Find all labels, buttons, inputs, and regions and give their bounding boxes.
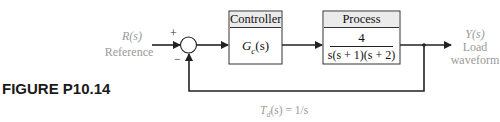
plus-sign: +	[170, 26, 177, 41]
controller-title-text: Controller	[230, 12, 281, 26]
disturbance-rest: (s) = 1/s	[270, 104, 308, 116]
disturbance-label: Td(s) = 1/s	[260, 104, 308, 119]
process-title: Process	[324, 12, 399, 28]
summing-junction	[181, 37, 197, 53]
minus-sign: −	[174, 52, 181, 67]
output-name-line2: waveform	[450, 53, 500, 68]
controller-tf-main: G	[242, 38, 251, 53]
figure-label: FIGURE P10.14	[2, 80, 110, 97]
process-numerator: 4	[324, 31, 399, 45]
controller-title: Controller	[230, 12, 281, 28]
process-transfer-function: 4 s(s + 1)(s + 2)	[324, 31, 399, 62]
controller-transfer-function: Gc(s)	[230, 38, 281, 56]
process-denominator: s(s + 1)(s + 2)	[324, 48, 399, 62]
controller-tf-arg: (s)	[255, 38, 269, 53]
input-name-label: Reference	[104, 45, 154, 60]
input-signal-label: R(s)	[112, 29, 152, 44]
fraction-bar	[330, 46, 393, 47]
process-title-text: Process	[342, 12, 380, 26]
